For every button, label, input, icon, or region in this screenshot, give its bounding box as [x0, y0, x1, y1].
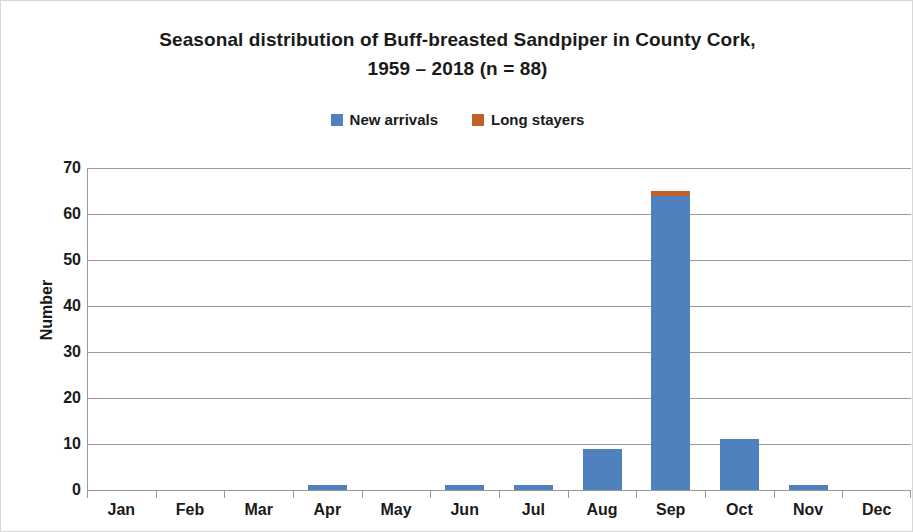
x-axis-tick-mark	[774, 490, 843, 498]
bar-slot-apr	[293, 168, 362, 490]
x-axis-label-mar: Mar	[224, 501, 293, 519]
bar-series-group	[87, 168, 911, 490]
y-axis-tick-label: 0	[37, 481, 81, 499]
x-axis-label-nov: Nov	[774, 501, 843, 519]
plot-wrapper: Number 706050403020100 JanFebMarAprMayJu…	[1, 1, 913, 532]
y-axis-tick-label: 30	[37, 343, 81, 361]
x-axis-tick-mark	[430, 490, 499, 498]
x-axis-tick-marks	[87, 490, 911, 498]
bar-stack[interactable]	[583, 449, 622, 490]
bar-slot-sep	[636, 168, 705, 490]
y-axis-tick-labels: 706050403020100	[25, 168, 81, 491]
x-axis-label-apr: Apr	[293, 501, 362, 519]
y-axis-tick-label: 60	[37, 205, 81, 223]
y-axis-tick-label: 50	[37, 251, 81, 269]
bar-stack[interactable]	[720, 439, 759, 490]
x-axis-tick-mark	[568, 490, 637, 498]
bar-slot-dec	[842, 168, 911, 490]
x-axis-tick-mark	[842, 490, 911, 498]
x-axis-tick-mark	[224, 490, 293, 498]
bar-segment-new-arrivals[interactable]	[583, 449, 622, 490]
x-axis-label-jan: Jan	[87, 501, 156, 519]
bar-slot-nov	[774, 168, 843, 490]
y-axis-tick-label: 40	[37, 297, 81, 315]
bar-slot-jul	[499, 168, 568, 490]
bar-stack[interactable]	[651, 191, 690, 490]
x-axis-label-dec: Dec	[842, 501, 911, 519]
bar-slot-jan	[87, 168, 156, 490]
x-axis-tick-mark	[87, 490, 156, 498]
x-axis-tick-mark	[499, 490, 568, 498]
bar-segment-new-arrivals[interactable]	[720, 439, 759, 490]
x-axis-tick-labels: JanFebMarAprMayJunJulAugSepOctNovDec	[87, 501, 911, 519]
x-axis-label-jul: Jul	[499, 501, 568, 519]
x-axis-label-aug: Aug	[568, 501, 637, 519]
x-axis-label-jun: Jun	[430, 501, 499, 519]
y-axis-tick-label: 70	[37, 159, 81, 177]
bar-slot-mar	[224, 168, 293, 490]
x-axis-tick-mark	[293, 490, 362, 498]
bar-slot-may	[362, 168, 431, 490]
bar-segment-new-arrivals[interactable]	[651, 196, 690, 490]
y-axis-tick-label: 10	[37, 435, 81, 453]
x-axis-label-sep: Sep	[636, 501, 705, 519]
x-axis-tick-mark	[362, 490, 431, 498]
y-axis-tick-label: 20	[37, 389, 81, 407]
x-axis-tick-mark	[156, 490, 225, 498]
chart-container: Seasonal distribution of Buff-breasted S…	[0, 0, 913, 532]
x-axis-label-oct: Oct	[705, 501, 774, 519]
x-axis-label-feb: Feb	[156, 501, 225, 519]
x-axis-tick-mark	[636, 490, 705, 498]
bar-slot-aug	[568, 168, 637, 490]
bar-slot-jun	[430, 168, 499, 490]
x-axis-tick-mark	[705, 490, 774, 498]
bar-slot-oct	[705, 168, 774, 490]
bar-slot-feb	[156, 168, 225, 490]
x-axis-label-may: May	[362, 501, 431, 519]
